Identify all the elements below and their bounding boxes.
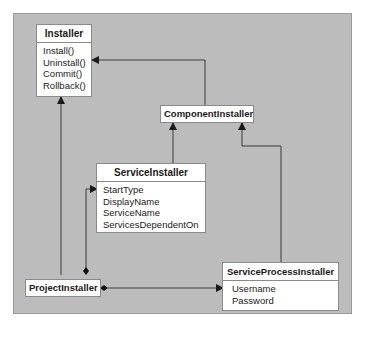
class-installer-members: Install() Uninstall() Commit() Rollback(… [37, 43, 91, 94]
member-username: Username [232, 283, 338, 295]
composition-diamond-top [83, 267, 89, 275]
class-installer: Installer Install() Uninstall() Commit()… [36, 24, 92, 97]
member-rollback: Rollback() [43, 80, 91, 92]
class-serviceprocessinstaller-members: Username Password [223, 281, 338, 309]
class-componentinstaller-title: ComponentInstaller [161, 106, 253, 121]
class-serviceinstaller: ServiceInstaller StartType DisplayName S… [96, 163, 206, 233]
member-starttype: StartType [103, 184, 205, 196]
inherit-componentinstaller-installer [92, 60, 205, 105]
composition-diamond-right [100, 285, 108, 291]
member-servicename: ServiceName [103, 207, 205, 219]
member-servicesdependenton: ServicesDependentOn [103, 219, 205, 231]
member-commit: Commit() [43, 68, 91, 80]
class-projectinstaller: ProjectInstaller [25, 279, 101, 297]
member-install: Install() [43, 45, 91, 57]
member-uninstall: Uninstall() [43, 57, 91, 69]
member-displayname: DisplayName [103, 196, 205, 208]
class-serviceprocessinstaller: ServiceProcessInstaller Username Passwor… [222, 262, 339, 311]
class-componentinstaller: ComponentInstaller [160, 105, 254, 123]
class-installer-title: Installer [37, 25, 91, 42]
inherit-serviceprocessinstaller-componentinstaller [242, 123, 281, 262]
class-projectinstaller-title: ProjectInstaller [26, 280, 100, 295]
class-serviceprocessinstaller-title: ServiceProcessInstaller [223, 263, 338, 280]
class-serviceinstaller-members: StartType DisplayName ServiceName Servic… [97, 182, 205, 233]
member-password: Password [232, 295, 338, 307]
class-serviceinstaller-title: ServiceInstaller [97, 164, 205, 181]
